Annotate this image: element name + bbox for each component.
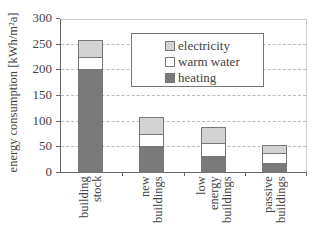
bar-segment-electricity [263, 146, 286, 153]
legend: electricity warm water heating [131, 33, 264, 87]
y-tick-label: 0 [30, 165, 52, 178]
bar-segment-warm-water [202, 143, 225, 156]
x-tick-label: new buildings [139, 176, 165, 228]
bar-segment-heating [202, 157, 225, 172]
bar-low-energy-buildings [201, 127, 226, 173]
y-tick-label: 300 [30, 11, 52, 24]
bar-new-buildings [139, 117, 164, 173]
y-axis-title: energy consumption [kWh/m²a] [6, 8, 21, 178]
legend-item-warm-water: warm water [165, 54, 240, 70]
bar-segment-electricity [202, 128, 225, 143]
legend-item-electricity: electricity [165, 38, 230, 54]
legend-swatch-electricity [165, 41, 175, 51]
bar-segment-warm-water [79, 57, 102, 70]
bar-segment-heating [140, 147, 163, 172]
bar-segment-heating [79, 70, 102, 172]
bar-segment-warm-water [140, 134, 163, 147]
bar-passive-buildings [262, 145, 287, 173]
bar-building-stock [78, 40, 103, 173]
bar-segment-electricity [79, 41, 102, 57]
x-tick-label: building stock [78, 176, 104, 228]
x-tick-label: low energy buildings [195, 176, 234, 228]
bar-segment-electricity [140, 118, 163, 134]
y-tick-label: 200 [30, 62, 52, 75]
y-tick-label: 100 [30, 114, 52, 127]
legend-label: warm water [178, 54, 240, 70]
bar-segment-heating [263, 164, 286, 172]
legend-swatch-heating [165, 73, 175, 83]
legend-swatch-warm-water [165, 57, 175, 67]
y-tick-label: 150 [30, 88, 52, 101]
legend-item-heating: heating [165, 70, 216, 86]
legend-label: heating [178, 70, 216, 86]
x-tick-label: passive buildings [262, 176, 288, 228]
y-tick-label: 250 [30, 37, 52, 50]
y-tick-label: 50 [30, 139, 52, 152]
y-axis-line [60, 19, 61, 173]
legend-label: electricity [178, 38, 230, 54]
bar-segment-warm-water [263, 153, 286, 164]
